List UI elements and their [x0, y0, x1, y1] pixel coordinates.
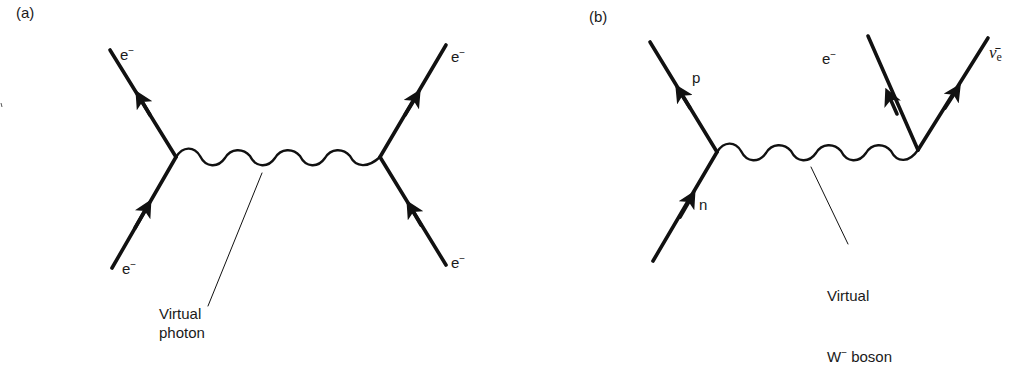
arrow-icon [140, 98, 150, 115]
arrow-icon [680, 198, 691, 217]
stray-mark [1, 103, 2, 107]
charge-superscript: − [459, 253, 465, 264]
particle-label-top-left: e− [120, 42, 134, 63]
arrow-icon [135, 207, 147, 228]
virtual-photon-wave [176, 149, 380, 166]
particle-symbol: p [692, 69, 700, 86]
particle-label-neutron: n [699, 196, 707, 213]
particle-label-bottom-left: e− [122, 256, 136, 277]
particle-label-top-right: e− [451, 44, 465, 65]
virtual-photon-caption: Virtual photon [159, 304, 205, 342]
particle-symbol: n [699, 196, 707, 213]
caption-line-1: Virtual [827, 286, 892, 305]
arrow-icon [411, 208, 421, 225]
virtual-w-boson-caption: Virtual W− boson [827, 248, 892, 366]
particle-label-proton: p [692, 69, 700, 86]
w-boson-leader-line [811, 167, 848, 244]
particle-symbol: ν̄ [989, 43, 997, 62]
particle-label-electron: e− [822, 46, 836, 67]
virtual-w-boson-wave [717, 144, 918, 161]
flavor-subscript: e [997, 50, 1002, 64]
charge-superscript: − [130, 259, 136, 270]
electron-line [868, 36, 918, 150]
diagram-b [650, 36, 988, 261]
caption-line-2: W− boson [827, 343, 892, 366]
photon-leader-line [208, 173, 262, 306]
arrow-icon [405, 97, 416, 115]
particle-label-antineutrino: ν̄e [989, 44, 1002, 66]
boson-word: boson [847, 348, 892, 365]
w-symbol: W [827, 348, 841, 365]
charge-superscript: − [830, 49, 836, 60]
panel-label-a: (a) [16, 4, 34, 21]
arrow-icon [945, 91, 956, 108]
charge-superscript: − [128, 45, 134, 56]
particle-label-bottom-right: e− [451, 250, 465, 271]
arrow-icon [680, 92, 690, 108]
charge-superscript: − [459, 47, 465, 58]
panel-label-b: (b) [589, 8, 607, 25]
diagram-a [110, 45, 446, 306]
